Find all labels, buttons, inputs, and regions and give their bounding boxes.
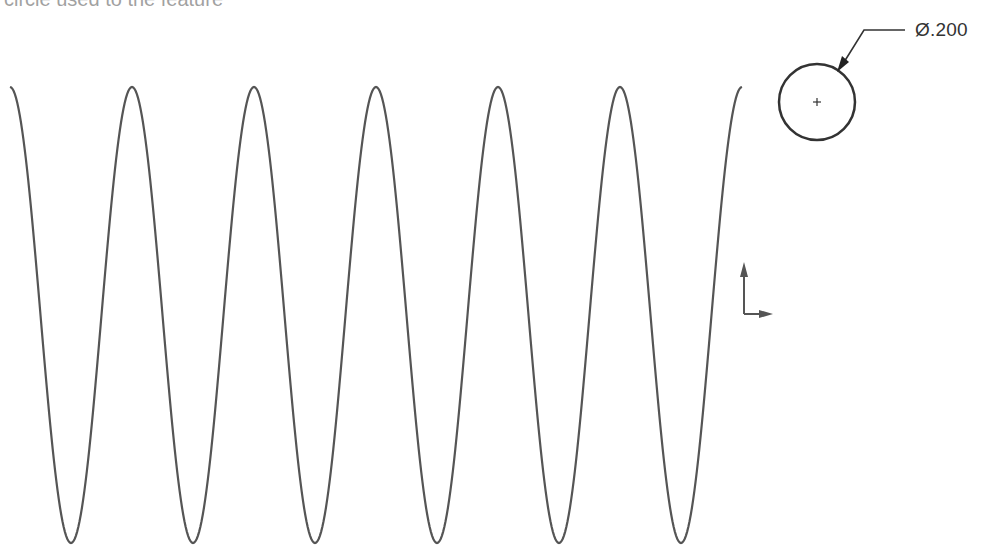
sketch-canvas[interactable] — [0, 0, 1007, 555]
dimension-leader[interactable] — [837, 30, 905, 72]
sinusoidal-sketch-curve[interactable] — [10, 87, 742, 543]
diameter-circle[interactable] — [779, 64, 855, 140]
diameter-dimension-label[interactable]: Ø.200 — [915, 19, 968, 41]
origin-axis-icon — [740, 262, 773, 318]
